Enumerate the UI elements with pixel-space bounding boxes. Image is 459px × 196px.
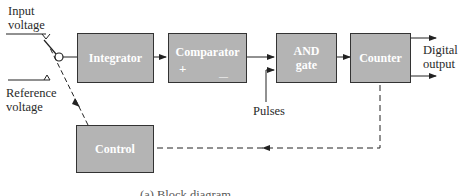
pulses-label: Pulses	[253, 104, 285, 118]
wiring	[0, 0, 459, 196]
counter-block: Counter	[350, 33, 411, 83]
control-label: Control	[95, 142, 135, 156]
reference-voltage-line1: Reference	[6, 86, 57, 100]
reference-voltage-label: Reference voltage	[6, 86, 57, 114]
digital-output-line2: output	[423, 57, 458, 71]
integrator-label: Integrator	[89, 51, 142, 65]
digital-output-line1: Digital	[423, 43, 458, 57]
input-voltage-line2: voltage	[8, 18, 45, 32]
comparator-plus-sign: +	[179, 62, 186, 76]
figure-caption: (a) Block diagram	[140, 188, 231, 196]
and-gate-label-line1: AND	[294, 44, 320, 58]
input-voltage-line1: Input	[8, 4, 45, 18]
counter-label: Counter	[359, 51, 402, 65]
reference-voltage-line2: voltage	[6, 100, 57, 114]
and-gate-label-line2: gate	[296, 58, 317, 72]
and-gate-block: AND gate	[276, 33, 337, 83]
digital-output-label: Digital output	[423, 43, 458, 71]
comparator-block: Comparator + —	[168, 33, 247, 83]
input-voltage-label: Input voltage	[8, 4, 45, 32]
integrator-block: Integrator	[77, 33, 154, 83]
comparator-minus-sign: —	[219, 69, 228, 83]
comparator-label: Comparator	[176, 45, 240, 59]
control-block: Control	[76, 125, 154, 173]
